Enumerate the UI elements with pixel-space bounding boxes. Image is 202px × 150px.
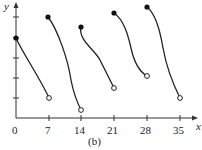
open-point-icon — [112, 86, 117, 91]
x-tick-label: 14 — [74, 124, 85, 136]
segment-4-curve — [114, 13, 147, 76]
y-axis-label: y — [4, 0, 9, 12]
segment-5-curve — [147, 7, 180, 98]
figure-caption: (b) — [88, 135, 101, 147]
closed-point-icon — [144, 4, 149, 9]
x-axis-label: x — [196, 120, 201, 132]
segment-1-curve — [16, 38, 49, 98]
closed-point-icon — [111, 10, 116, 15]
open-point-icon — [145, 74, 150, 79]
x-tick-label: 28 — [140, 124, 151, 136]
x-tick-label: 0 — [12, 124, 18, 136]
closed-point-icon — [13, 35, 18, 40]
open-point-icon — [178, 96, 183, 101]
segment-3-curve — [81, 27, 114, 88]
open-point-icon — [47, 96, 52, 101]
x-tick-label: 21 — [107, 124, 118, 136]
x-tick-label: 7 — [45, 124, 51, 136]
y-axis-arrow-icon — [14, 2, 19, 8]
closed-point-icon — [78, 24, 83, 29]
open-point-icon — [79, 108, 84, 113]
segment-2-curve — [48, 17, 81, 110]
x-tick-label: 35 — [173, 124, 184, 136]
chart-plot — [0, 0, 202, 150]
closed-point-icon — [45, 14, 50, 19]
